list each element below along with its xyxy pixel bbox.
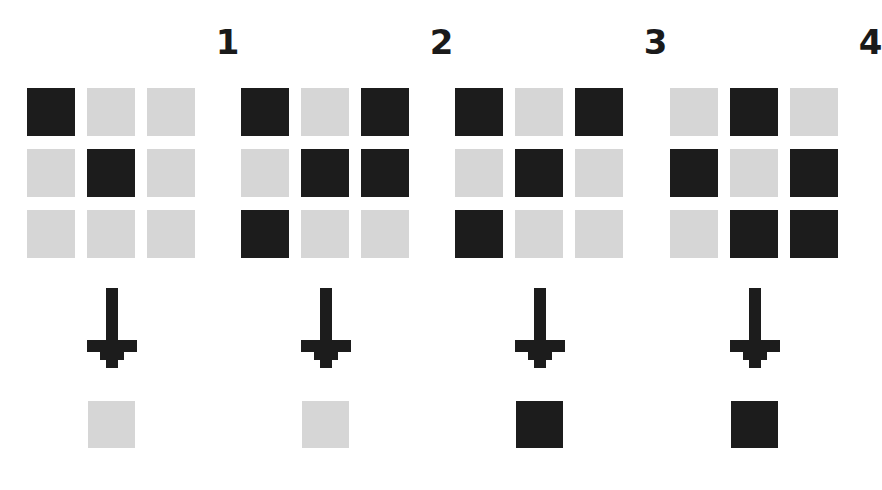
grid-cell-r3-c2[interactable] [87, 210, 135, 258]
grid-cell-r1-c3[interactable] [790, 88, 838, 136]
panel-4: 4 [670, 0, 882, 490]
grid-cell-r1-c2[interactable] [730, 88, 778, 136]
output-square[interactable] [516, 401, 563, 448]
output-square[interactable] [302, 401, 349, 448]
grid-cell-r3-c3[interactable] [147, 210, 195, 258]
panel-1: 1 [27, 0, 239, 490]
grid-cell-r2-c3[interactable] [147, 149, 195, 197]
input-grid [27, 88, 195, 258]
grid-cell-r3-c1[interactable] [27, 210, 75, 258]
input-grid [455, 88, 623, 258]
grid-cell-r1-c1[interactable] [670, 88, 718, 136]
arrow-down-glyph [515, 288, 565, 368]
grid-cell-r1-c3[interactable] [147, 88, 195, 136]
grid-cell-r1-c1[interactable] [241, 88, 289, 136]
grid-cell-r3-c1[interactable] [455, 210, 503, 258]
grid-cell-r2-c2[interactable] [730, 149, 778, 197]
grid-cell-r2-c3[interactable] [575, 149, 623, 197]
arrow-down-icon [730, 288, 780, 372]
grid-cell-r3-c3[interactable] [575, 210, 623, 258]
grid-cell-r2-c2[interactable] [301, 149, 349, 197]
input-grid [241, 88, 409, 258]
grid-cell-r3-c2[interactable] [730, 210, 778, 258]
grid-cell-r1-c3[interactable] [361, 88, 409, 136]
grid-cell-r3-c3[interactable] [361, 210, 409, 258]
grid-cell-r2-c2[interactable] [515, 149, 563, 197]
grid-cell-r1-c2[interactable] [301, 88, 349, 136]
panel-2: 2 [241, 0, 453, 490]
arrow-down-glyph [730, 288, 780, 368]
grid-cell-r2-c1[interactable] [27, 149, 75, 197]
grid-cell-r2-c1[interactable] [241, 149, 289, 197]
arrow-down-icon [515, 288, 565, 372]
panel-label: 1 [179, 22, 239, 62]
arrow-down-icon [87, 288, 137, 372]
panel-3: 3 [455, 0, 667, 490]
grid-cell-r1-c2[interactable] [87, 88, 135, 136]
output-square[interactable] [731, 401, 778, 448]
grid-cell-r1-c3[interactable] [575, 88, 623, 136]
panel-label: 3 [607, 22, 667, 62]
grid-cell-r3-c2[interactable] [301, 210, 349, 258]
grid-cell-r3-c2[interactable] [515, 210, 563, 258]
grid-cell-r1-c1[interactable] [27, 88, 75, 136]
panel-label: 2 [393, 22, 453, 62]
grid-cell-r1-c1[interactable] [455, 88, 503, 136]
grid-cell-r3-c1[interactable] [670, 210, 718, 258]
arrow-down-icon [301, 288, 351, 372]
arrow-down-glyph [301, 288, 351, 368]
grid-cell-r2-c3[interactable] [790, 149, 838, 197]
grid-cell-r3-c3[interactable] [790, 210, 838, 258]
input-grid [670, 88, 838, 258]
grid-cell-r2-c1[interactable] [455, 149, 503, 197]
grid-cell-r2-c2[interactable] [87, 149, 135, 197]
grid-cell-r2-c3[interactable] [361, 149, 409, 197]
output-square[interactable] [88, 401, 135, 448]
arrow-down-glyph [87, 288, 137, 368]
grid-cell-r1-c2[interactable] [515, 88, 563, 136]
panel-label: 4 [822, 22, 882, 62]
grid-cell-r2-c1[interactable] [670, 149, 718, 197]
grid-cell-r3-c1[interactable] [241, 210, 289, 258]
